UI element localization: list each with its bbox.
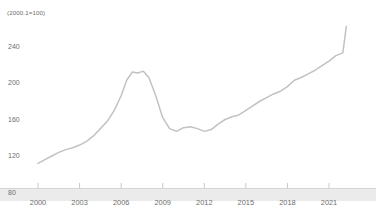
x-axis-tickmarks <box>38 183 329 188</box>
plot-area <box>0 0 376 223</box>
series-line-index <box>38 26 346 163</box>
chart-container: (2000.1=100) 80120160200240 200020032006… <box>0 0 376 223</box>
